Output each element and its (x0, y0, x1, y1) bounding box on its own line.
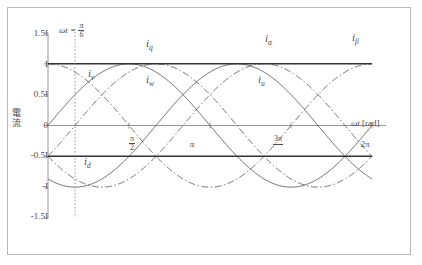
ytick-label-3: 0.5I (12, 90, 48, 99)
series-label-i-u-sub: u (261, 79, 265, 88)
ytick-label-6: -I (12, 182, 48, 191)
fraction-pi-6: π 6 (78, 22, 84, 40)
fraction-numerator: 3π (273, 135, 283, 144)
y-axis-label: 電流 (9, 108, 23, 128)
series-label-i-w: iw (146, 74, 154, 88)
series-label-i-d: id (84, 156, 91, 170)
xtick-label-pi: π (180, 140, 204, 149)
series-label-i-q-sub: q (149, 43, 153, 52)
ytick-label-2: I (12, 60, 48, 69)
series-label-i-alpha-sub: α (268, 38, 272, 47)
ytick-label-5: -0.5I (8, 151, 48, 160)
omega-t-marker-label: ωt = π 6 (59, 22, 84, 40)
x-axis-label: ωt [rad] (351, 119, 380, 128)
ytick-label-1: 1.5I (12, 29, 48, 38)
fraction-3pi-2: 3π (273, 135, 283, 144)
omega-t-marker-prefix: ωt = (59, 25, 76, 35)
series-label-i-v: iv (88, 68, 94, 82)
series-label-i-v-sub: v (91, 73, 94, 82)
xtick-label-2pi: 2π (352, 140, 378, 149)
fraction-pi-2: π 2 (129, 135, 135, 153)
series-label-i-alpha: iα (265, 33, 272, 47)
series-label-i-q: iq (146, 38, 153, 52)
ytick-label-7: -1.5I (8, 212, 48, 221)
xtick-label-3pi-over-2: 3π (264, 135, 292, 145)
series-label-i-beta-sub: β (355, 37, 359, 46)
axes-group (44, 33, 386, 218)
x-axis-label-unit: [rad] (360, 118, 380, 128)
series-label-i-d-sub: d (87, 161, 91, 170)
series-label-i-beta: iβ (352, 32, 359, 46)
y-axis-label-text: 電流 (12, 108, 21, 128)
series-label-i-u: iu (258, 74, 265, 88)
series-label-i-w-sub: w (149, 79, 154, 88)
figure-container: 1.5I I 0.5I 0 -0.5I -I -1.5I 電流 π 2 π 3π… (0, 0, 422, 265)
fraction-denominator: 6 (78, 31, 84, 39)
x-axis-label-symbol: ωt (351, 118, 360, 128)
xtick-label-pi-over-2: π 2 (120, 135, 144, 153)
fraction-denominator: 2 (129, 144, 135, 152)
